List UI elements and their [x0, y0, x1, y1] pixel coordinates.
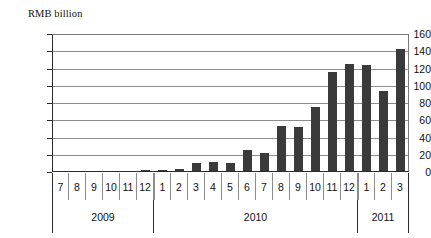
x-axis-month-label: 1 — [154, 173, 171, 200]
x-axis-month-label: 12 — [341, 173, 358, 200]
x-axis-year-labels: 200920102011 — [52, 200, 409, 233]
plot-frame — [52, 34, 409, 172]
x-axis-month-label: 3 — [392, 173, 409, 200]
x-axis-right-spine — [408, 173, 409, 233]
x-axis-month-label: 3 — [188, 173, 205, 200]
x-axis-month-label: 6 — [239, 173, 256, 200]
x-axis-year-label: 2010 — [154, 200, 358, 233]
x-axis-month-label: 11 — [324, 173, 341, 200]
x-axis-month-label: 8 — [69, 173, 86, 200]
x-axis-month-label: 11 — [120, 173, 137, 200]
x-axis-month-label: 9 — [86, 173, 103, 200]
y-axis-unit-label: RMB billion — [28, 8, 83, 19]
x-axis-month-label: 1 — [358, 173, 375, 200]
x-axis-month-labels: 789101112123456789101112123 — [52, 173, 409, 200]
x-axis-month-label: 7 — [52, 173, 69, 200]
plot-area — [52, 34, 409, 172]
x-axis-month-label: 2 — [171, 173, 188, 200]
x-axis-month-label: 5 — [222, 173, 239, 200]
x-axis-month-label: 12 — [137, 173, 154, 200]
x-axis-month-label: 9 — [290, 173, 307, 200]
x-axis-month-label: 10 — [103, 173, 120, 200]
bar-chart: RMB billion 020406080100120140160 789101… — [0, 0, 431, 238]
x-axis-month-label: 2 — [375, 173, 392, 200]
x-axis-month-label: 10 — [307, 173, 324, 200]
x-axis-left-spine — [52, 173, 53, 233]
x-axis-month-label: 7 — [256, 173, 273, 200]
x-axis-year-label: 2011 — [358, 200, 409, 233]
x-axis-month-label: 4 — [205, 173, 222, 200]
x-axis-month-label: 8 — [273, 173, 290, 200]
x-axis-year-label: 2009 — [52, 200, 154, 233]
